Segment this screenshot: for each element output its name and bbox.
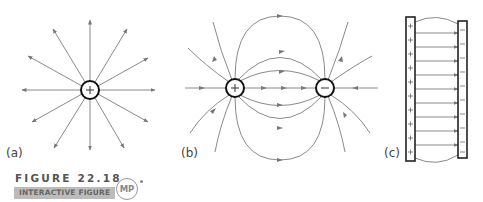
badge-dot-icon <box>140 180 143 183</box>
mastering-physics-badge[interactable]: MP <box>116 178 138 200</box>
panel-a-label: (a) <box>6 146 23 160</box>
positive-charge-a <box>81 81 99 99</box>
panel-b-label: (b) <box>181 146 198 160</box>
panel-c-label: (c) <box>384 146 400 160</box>
panel-c-parallel-plates <box>406 17 467 162</box>
positive-charge-b <box>226 79 244 97</box>
panel-b-dipole <box>185 14 378 162</box>
interactive-figure-button[interactable]: INTERACTIVE FIGURE <box>14 187 115 199</box>
negative-plate <box>458 21 467 158</box>
negative-charge-b <box>316 79 334 97</box>
figure-title: FIGURE 22.18 <box>15 172 122 184</box>
